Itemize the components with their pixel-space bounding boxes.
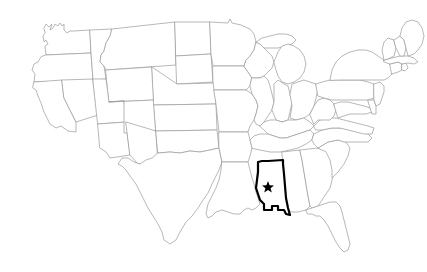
state-pennsylvania[interactable] (316, 80, 374, 100)
state-wyoming[interactable] (106, 67, 154, 102)
state-south-dakota[interactable] (176, 54, 213, 84)
state-new-jersey[interactable] (374, 82, 384, 106)
state-missouri[interactable] (214, 90, 258, 132)
state-oklahoma[interactable] (156, 130, 219, 153)
state-washington[interactable] (43, 23, 91, 55)
state-kansas[interactable] (154, 104, 217, 131)
us-map-container (0, 0, 427, 272)
state-vermont[interactable] (382, 38, 396, 60)
state-florida[interactable] (306, 202, 350, 252)
state-oregon[interactable] (32, 53, 93, 82)
state-north-dakota[interactable] (175, 22, 211, 56)
state-maryland[interactable] (334, 102, 372, 118)
state-indiana[interactable] (272, 80, 292, 122)
state-arkansas[interactable] (219, 132, 252, 162)
state-michigan-lower[interactable] (274, 44, 306, 84)
state-texas[interactable] (118, 148, 222, 244)
us-states-map (0, 0, 427, 272)
